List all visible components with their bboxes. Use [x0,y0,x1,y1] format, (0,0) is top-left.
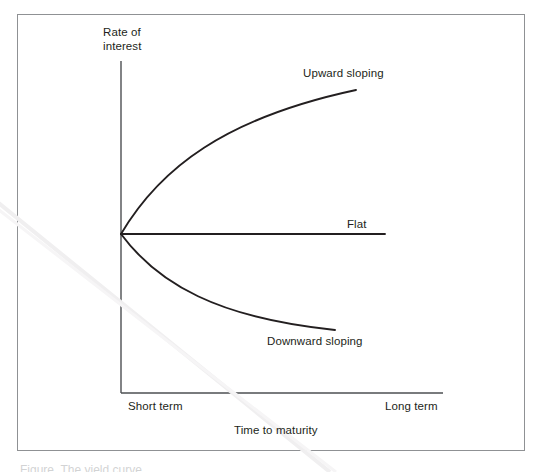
upward-sloping-label: Upward sloping [303,67,384,81]
x-axis-tick-label-short-term: Short term [128,400,183,414]
figure-container: Rate ofinterest Upward sloping Flat Down… [0,0,541,472]
upward-sloping-curve [121,90,356,234]
y-axis-title-line-2: interest [103,40,142,52]
figure-caption: Figure The yield curve [20,463,440,472]
y-axis-title: Rate ofinterest [103,26,142,53]
downward-sloping-curve [121,234,335,330]
x-axis-title: Time to maturity [234,424,318,438]
downward-sloping-label: Downward sloping [267,335,363,349]
y-axis-title-line-1: Rate of [103,26,141,38]
yield-curve-plot [0,0,541,472]
x-axis-tick-label-long-term: Long term [385,400,438,414]
flat-label: Flat [347,218,367,232]
